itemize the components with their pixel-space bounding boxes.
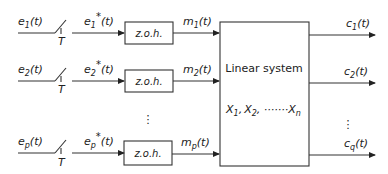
output-cq: cq(t): [309, 137, 375, 155]
channel-2: e2(t) T e2*(t) z.o.h. m2(t): [18, 59, 219, 96]
linear-system-block: Linear system X1,X2, ·······Xn: [220, 22, 309, 166]
linear-system-label: Linear system: [225, 62, 302, 75]
sampler-period-2: T: [58, 83, 66, 96]
c1-label: c1(t): [346, 17, 370, 32]
zoh-label-p: z.o.h.: [133, 148, 161, 159]
input-e2-label: e2(t): [18, 63, 43, 78]
sampled-e2-label: e2*(t): [84, 59, 114, 78]
state-variables-label: X1,X2, ·······Xn: [225, 103, 301, 118]
input-e1-label: e1(t): [18, 15, 43, 30]
input-ep-label: ep(t): [18, 135, 43, 150]
m1-label: m1(t): [183, 15, 212, 30]
channel-p: ep(t) T ep*(t) z.o.h. mp(t): [18, 131, 219, 169]
mp-label: mp(t): [181, 136, 210, 151]
channel-1: e1(t) T e1*(t) z.o.h. m1(t): [18, 11, 219, 48]
sampler-period-p: T: [58, 156, 66, 169]
channel-ellipsis: ⋮: [143, 113, 154, 126]
block-diagram: e1(t) T e1*(t) z.o.h. m1(t) e2(t) T e2*(…: [0, 0, 388, 174]
m2-label: m2(t): [183, 63, 212, 78]
output-c1: c1(t): [309, 17, 375, 35]
zoh-label-2: z.o.h.: [134, 76, 162, 87]
output-ellipsis: ⋮: [343, 118, 354, 131]
c2-label: c2(t): [344, 65, 368, 80]
sampled-ep-label: ep*(t): [84, 131, 114, 150]
sampled-e1-label: e1*(t): [84, 11, 114, 30]
output-c2: c2(t): [309, 65, 375, 83]
sampler-period-1: T: [58, 35, 66, 48]
zoh-label-1: z.o.h.: [134, 28, 162, 39]
linear-system-box: [220, 22, 309, 166]
cq-label: cq(t): [344, 137, 368, 152]
